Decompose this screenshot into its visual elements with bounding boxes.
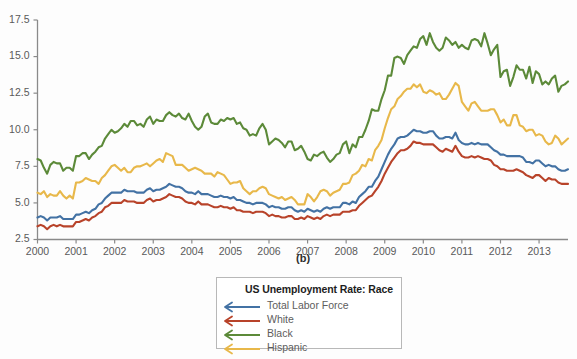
y-axis-tick-label: 2.5	[15, 232, 30, 244]
legend-item-label: Hispanic	[267, 341, 307, 353]
x-axis-tick-label: 2008	[334, 245, 358, 257]
series-line-hispanic	[38, 83, 569, 204]
x-axis-tick-label: 2001	[64, 245, 88, 257]
legend-item-white[interactable]: White	[223, 312, 395, 326]
y-axis-tick-label: 5.0	[15, 196, 30, 208]
x-axis-tick-label: 2002	[103, 245, 127, 257]
series-line-total-labor-force	[38, 130, 569, 221]
chart-axes	[38, 20, 569, 240]
left-arrow-icon	[223, 341, 261, 353]
y-axis-tick-label: 7.5	[15, 159, 30, 171]
y-axis-tick-label: 17.5	[9, 13, 30, 25]
legend-item-label: White	[267, 313, 294, 325]
chart-legend: US Unemployment Rate: Race Total Labor F…	[216, 277, 402, 349]
x-axis-tick-label: 2010	[412, 245, 436, 257]
x-axis-tick-label: 2013	[527, 245, 551, 257]
y-axis-ticks: 2.55.07.510.012.515.017.5	[9, 13, 37, 245]
legend-item-hispanic[interactable]: Hispanic	[223, 340, 395, 354]
legend-item-black[interactable]: Black	[223, 326, 395, 340]
series-line-white	[38, 141, 569, 229]
legend-item-label: Total Labor Force	[267, 299, 349, 311]
legend-item-label: Black	[267, 327, 293, 339]
left-arrow-icon	[223, 313, 261, 325]
y-axis-tick-label: 12.5	[9, 86, 30, 98]
left-arrow-icon	[223, 327, 261, 339]
chart-series-lines	[38, 33, 569, 229]
x-axis-ticks: 2000200120022003200420052006200720082009…	[26, 240, 551, 257]
legend-items-list: Total Labor ForceWhiteBlackHispanic	[223, 298, 395, 354]
x-axis-tick-label: 2005	[219, 245, 243, 257]
x-axis-tick-label: 2011	[451, 245, 474, 257]
x-axis-tick-label: 2000	[26, 245, 50, 257]
legend-title: US Unemployment Rate: Race	[223, 283, 393, 295]
y-axis-tick-label: 15.0	[9, 49, 30, 61]
x-axis-tick-label: 2004	[180, 245, 204, 257]
panel-letter-label: (b)	[296, 252, 310, 264]
x-axis-tick-label: 2009	[373, 245, 397, 257]
legend-item-total-labor-force[interactable]: Total Labor Force	[223, 298, 395, 312]
series-line-black	[38, 33, 569, 173]
x-axis-tick-label: 2003	[142, 245, 166, 257]
left-arrow-icon	[223, 299, 261, 311]
y-axis-tick-label: 10.0	[9, 123, 30, 135]
x-axis-tick-label: 2012	[489, 245, 513, 257]
x-axis-tick-label: 2006	[257, 245, 281, 257]
